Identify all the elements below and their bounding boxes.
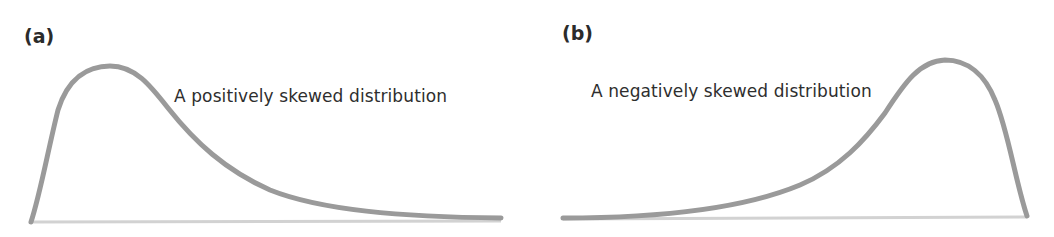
panel-a-baseline — [31, 221, 501, 222]
panel-a-curve — [31, 66, 501, 222]
panel-b-curve — [563, 60, 1027, 218]
skew-curves-plot — [0, 0, 1054, 237]
